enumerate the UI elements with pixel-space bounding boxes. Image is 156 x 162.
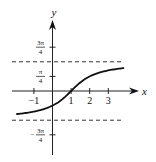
x-axis-label: x <box>141 85 147 97</box>
y-tick-label-numerator: 3π <box>37 39 45 47</box>
y-tick-label-numerator: 3π <box>37 127 45 135</box>
x-tick-label: 3 <box>106 95 111 106</box>
y-tick-label-denominator: 4 <box>39 136 43 144</box>
y-tick-label-denominator: 4 <box>39 77 43 85</box>
x-tick-label: −1 <box>29 95 40 106</box>
y-tick-label-sign: − <box>31 131 35 139</box>
x-tick-label: 2 <box>87 95 92 106</box>
y-axis-label: y <box>51 6 57 18</box>
y-tick-label-numerator: π <box>39 68 43 76</box>
arctan-graph: x y −1123 3π4π43π4− <box>0 0 156 162</box>
y-tick-label-denominator: 4 <box>39 48 43 56</box>
x-tick-label: 1 <box>69 95 74 106</box>
